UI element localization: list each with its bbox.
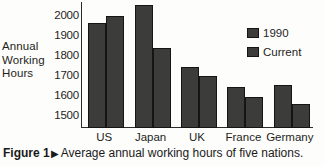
bar-us-1990 xyxy=(88,23,106,128)
bar-group xyxy=(274,2,310,128)
figure: Annual Working Hours 1500160017001800190… xyxy=(0,0,325,166)
bar-uk-1990 xyxy=(181,67,199,128)
y-axis-tick-label: 1700 xyxy=(52,70,79,82)
caption-marker-icon: ▶ xyxy=(50,148,61,159)
y-axis-tick-labels: 150016001700180019002000 xyxy=(52,0,79,140)
y-axis-title: Annual Working Hours xyxy=(2,40,54,81)
x-axis-tick-labels: USJapanUKFranceGermany xyxy=(81,130,325,146)
bar-group xyxy=(227,2,263,128)
chart-legend: 1990 Current xyxy=(247,27,325,65)
plot-area xyxy=(81,2,313,128)
legend-entry-current: Current xyxy=(247,46,325,58)
y-axis-title-line-2: Working xyxy=(2,54,54,68)
figure-caption: Figure 1▶Average annual working hours of… xyxy=(3,146,323,161)
y-axis-tick-label: 2000 xyxy=(52,10,79,22)
y-axis-title-line-1: Annual xyxy=(2,40,54,54)
y-axis-tick-label: 1600 xyxy=(52,90,79,102)
x-axis-tick-label-germany: Germany xyxy=(261,130,319,144)
figure-caption-label: Figure 1 xyxy=(3,146,50,160)
legend-swatch-1990-icon xyxy=(247,28,259,38)
y-axis-title-line-3: Hours xyxy=(2,67,54,81)
y-axis-tick-label: 1900 xyxy=(52,30,79,42)
bar-japan-current xyxy=(153,48,171,128)
bar-france-current xyxy=(245,97,263,128)
y-axis-tick-label: 1500 xyxy=(52,110,79,122)
legend-swatch-current-icon xyxy=(247,47,259,57)
legend-label-1990: 1990 xyxy=(263,27,289,39)
bar-germany-current xyxy=(292,104,310,128)
bar-chart: Annual Working Hours 1500160017001800190… xyxy=(0,0,325,140)
bar-us-current xyxy=(106,16,124,128)
bar-uk-current xyxy=(199,76,217,128)
bar-group xyxy=(135,2,171,128)
bar-group xyxy=(88,2,124,128)
figure-caption-text: Average annual working hours of five nat… xyxy=(61,146,304,160)
legend-label-current: Current xyxy=(263,46,301,58)
bar-germany-1990 xyxy=(274,85,292,128)
legend-entry-1990: 1990 xyxy=(247,27,325,39)
bar-group xyxy=(181,2,217,128)
bar-japan-1990 xyxy=(135,5,153,128)
bar-france-1990 xyxy=(227,87,245,128)
y-axis-tick-label: 1800 xyxy=(52,50,79,62)
